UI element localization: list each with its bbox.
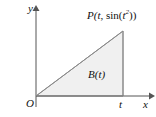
y-axis-label: y xyxy=(28,3,33,14)
x-tick-label-t: t xyxy=(119,99,122,110)
point-label-close: ) xyxy=(133,9,137,21)
point-label-prefix: P( xyxy=(87,9,97,21)
point-label-p: P(t, sin(t2)) xyxy=(87,9,136,21)
region-label-bt: B(t) xyxy=(88,69,105,80)
x-axis-arrow-icon xyxy=(149,93,155,100)
math-figure: y x O t B(t) P(t, sin(t2)) xyxy=(0,0,156,117)
x-axis-label: x xyxy=(143,99,148,110)
y-axis-arrow-icon xyxy=(33,5,40,11)
point-label-function: sin xyxy=(106,9,119,21)
origin-label: O xyxy=(26,98,34,109)
